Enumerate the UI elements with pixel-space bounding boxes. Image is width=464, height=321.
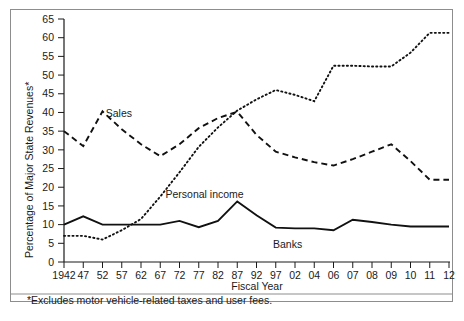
figure-container: Percentage of Major State Revenues* 0510… [0, 0, 464, 321]
series-label-personal-income: Personal income [166, 188, 244, 200]
series-label-sales: Sales [106, 107, 132, 119]
x-tick-label: 10 [405, 269, 417, 281]
y-axis-ticks: 05101520253035404550556065 [42, 13, 64, 268]
series-line-personal-income [64, 33, 449, 240]
x-tick-label: 62 [135, 269, 147, 281]
x-axis-ticks: 1942475257626772778287929702040607080910… [52, 262, 455, 281]
x-tick-label: 02 [289, 269, 301, 281]
footnote: *Excludes motor vehicle-related taxes an… [27, 294, 272, 306]
x-tick-label: 82 [212, 269, 224, 281]
x-tick-label: 11 [424, 269, 435, 281]
y-tick-label: 65 [42, 13, 54, 25]
y-tick-label: 0 [48, 256, 54, 268]
x-tick-label: 77 [193, 269, 205, 281]
x-tick-label: 1942 [52, 269, 76, 281]
x-tick-label: 08 [366, 269, 378, 281]
x-tick-label: 67 [154, 269, 166, 281]
x-tick-label: 09 [385, 269, 397, 281]
x-tick-label: 47 [77, 269, 89, 281]
y-tick-label: 60 [42, 31, 54, 43]
y-tick-label: 55 [42, 50, 54, 62]
y-tick-label: 20 [42, 181, 54, 193]
y-tick-label: 15 [42, 200, 54, 212]
series-line-banks [64, 201, 449, 230]
x-tick-label: 12 [443, 269, 455, 281]
x-tick-label: 57 [116, 269, 128, 281]
series-line-sales [64, 111, 449, 179]
y-tick-label: 45 [42, 87, 54, 99]
y-axis-title: Percentage of Major State Revenues* [23, 82, 35, 258]
x-tick-label: 72 [174, 269, 186, 281]
y-tick-label: 25 [42, 162, 54, 174]
series-label-banks: Banks [273, 238, 302, 250]
x-tick-label: 04 [308, 269, 320, 281]
y-tick-label: 30 [42, 144, 54, 156]
x-tick-label: 06 [328, 269, 340, 281]
x-tick-label: 07 [347, 269, 359, 281]
y-tick-label: 10 [42, 218, 54, 230]
y-tick-label: 50 [42, 69, 54, 81]
y-tick-label: 5 [48, 237, 54, 249]
x-tick-label: 52 [97, 269, 109, 281]
y-tick-label: 35 [42, 125, 54, 137]
y-tick-label: 40 [42, 106, 54, 118]
x-axis-title: Fiscal Year [231, 280, 283, 292]
line-chart: Percentage of Major State Revenues* 0510… [0, 0, 464, 321]
